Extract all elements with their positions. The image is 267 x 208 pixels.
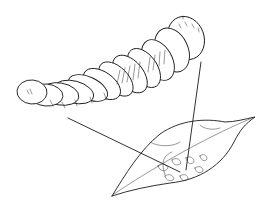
- larva-leaf-illustration: [0, 0, 267, 208]
- pointer-line-2: [186, 62, 201, 170]
- larva: [16, 11, 210, 108]
- leaf: [112, 117, 255, 196]
- illustration: [0, 0, 267, 208]
